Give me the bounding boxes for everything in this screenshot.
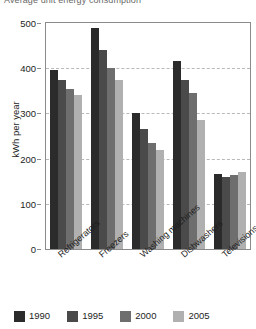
- y-axis-tick-mark: [37, 204, 41, 205]
- bar: [99, 50, 107, 249]
- y-axis-tick-mark: [37, 68, 41, 69]
- bar: [115, 80, 123, 250]
- bar-group: [50, 23, 82, 249]
- bar-group: [214, 23, 246, 249]
- y-axis: 5004003002001000: [0, 22, 41, 250]
- bar: [66, 89, 74, 249]
- legend-item[interactable]: 1990: [14, 311, 50, 322]
- bar: [107, 68, 115, 249]
- y-axis-tick-mark: [37, 159, 41, 160]
- y-axis-tick-label: 300: [20, 108, 36, 119]
- legend: 1990199520002005: [14, 309, 246, 323]
- y-axis-tick-label: 100: [20, 198, 36, 209]
- y-axis-tick-label: 400: [20, 63, 36, 74]
- x-axis: RefrigeratorsFreezersWashing machinesDis…: [0, 250, 256, 302]
- y-axis-tick-label: 500: [20, 18, 36, 29]
- page-title: Average unit energy consumption: [4, 0, 141, 5]
- bars-layer: [46, 23, 250, 249]
- bar: [222, 177, 230, 249]
- legend-label: 2000: [135, 311, 156, 321]
- legend-label: 2005: [188, 311, 209, 321]
- bar-group: [132, 23, 164, 249]
- bar: [58, 80, 66, 250]
- bar: [50, 70, 58, 249]
- bar: [214, 174, 222, 249]
- bar: [189, 93, 197, 249]
- legend-label: 1995: [82, 311, 103, 321]
- bar: [148, 143, 156, 249]
- bar: [91, 28, 99, 249]
- legend-swatch: [67, 311, 78, 322]
- legend-item[interactable]: 2000: [120, 311, 156, 322]
- bar: [140, 129, 148, 249]
- y-axis-tick-mark: [37, 23, 41, 24]
- y-axis-tick-mark: [37, 113, 41, 114]
- legend-item[interactable]: 2005: [173, 311, 209, 322]
- legend-label: 1990: [29, 311, 50, 321]
- legend-swatch: [120, 311, 131, 322]
- bar: [74, 95, 82, 249]
- legend-swatch: [14, 311, 25, 322]
- y-axis-tick-label: 200: [20, 153, 36, 164]
- bar-group: [91, 23, 123, 249]
- legend-swatch: [173, 311, 184, 322]
- legend-item[interactable]: 1995: [67, 311, 103, 322]
- bar: [132, 113, 140, 249]
